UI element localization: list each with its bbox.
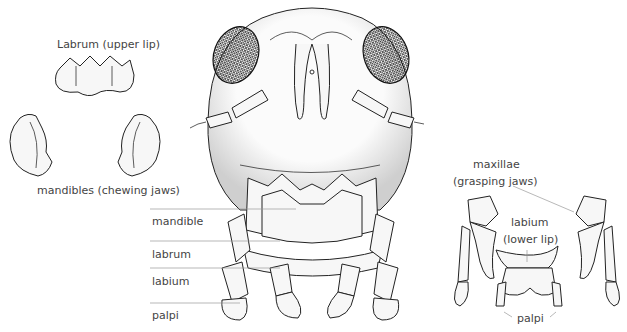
maxilla-left-drawing [454, 196, 498, 306]
callout-labium: labium [152, 275, 190, 288]
labium-detail-drawing [496, 246, 562, 306]
mandible-right-drawing [118, 114, 160, 176]
mandible-left-drawing [10, 114, 52, 176]
maxilla-right-drawing [576, 196, 620, 306]
palpi-detail-label: palpi [517, 312, 544, 325]
maxillae-label: maxillae [473, 158, 520, 171]
callout-labrum: labrum [152, 248, 191, 261]
labium-detail-sublabel: (lower lip) [503, 233, 558, 246]
mandibles-detail-label: mandibles (chewing jaws) [37, 184, 180, 197]
labrum-detail-label: Labrum (upper lip) [57, 38, 160, 51]
labrum-detail-drawing [56, 56, 135, 96]
labium-detail-label: labium [511, 216, 549, 229]
callout-mandible: mandible [152, 215, 203, 228]
maxillae-sublabel: (grasping jaws) [453, 175, 538, 188]
callout-palpi: palpi [152, 309, 179, 322]
